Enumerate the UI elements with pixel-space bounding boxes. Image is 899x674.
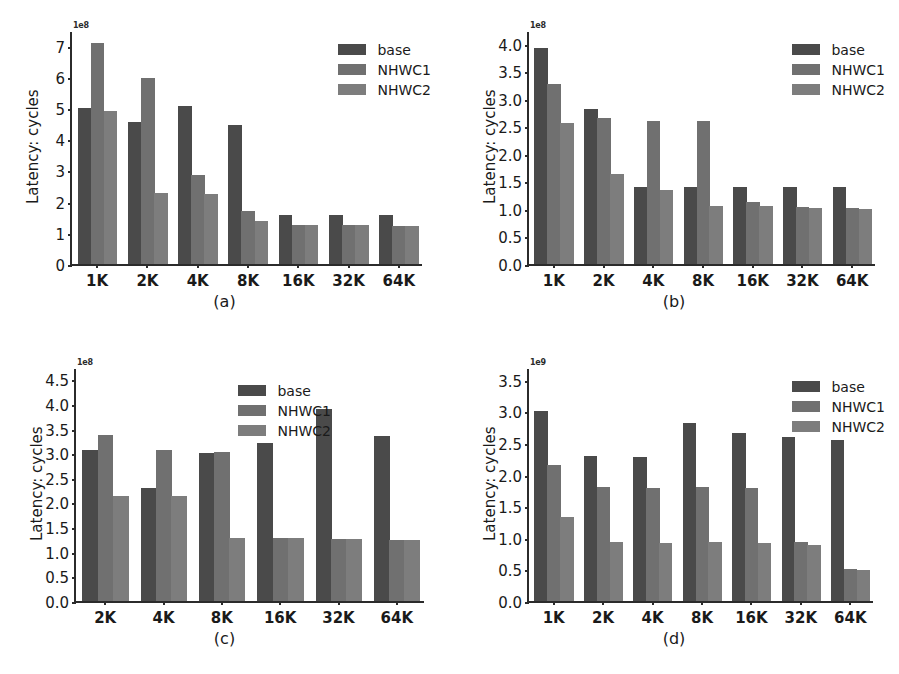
x-tick-mark-d-5 [800, 601, 802, 605]
bar-b-64K-base [833, 187, 847, 264]
x-tick-mark-a-5 [348, 264, 350, 268]
bar-d-1K-NHWC2 [560, 517, 573, 601]
legend-swatch-NHWC1-icon [338, 64, 366, 75]
x-tick-label-a-1: 2K [136, 272, 158, 290]
bar-b-4K-NHWC2 [660, 190, 674, 264]
figure-bar-chart-grid: 012345671K2K4K8K16K32K64K1e8Latency: cyc… [0, 0, 899, 674]
x-tick-label-b-6: 64K [836, 272, 869, 290]
y-tick-mark-d-7 [525, 381, 529, 383]
y-tick-mark-d-4 [525, 476, 529, 478]
legend-swatch-NHWC2-icon [792, 421, 820, 432]
bar-b-2K-NHWC1 [597, 118, 611, 264]
bar-d-32K-NHWC2 [807, 545, 820, 601]
y-tick-mark-c-0 [72, 602, 76, 604]
panel-d: 0.00.51.01.52.02.53.03.51K2K4K8K16K32K64… [449, 337, 899, 674]
x-tick-label-a-5: 32K [332, 272, 365, 290]
x-tick-mark-b-5 [801, 264, 803, 268]
bar-a-2K-base [128, 122, 142, 264]
bar-a-2K-NHWC2 [154, 193, 168, 264]
legend-swatch-NHWC1-icon [238, 405, 266, 416]
y-tick-mark-c-4 [72, 503, 76, 505]
x-tick-mark-c-5 [396, 601, 398, 605]
y-tick-mark-d-0 [525, 602, 529, 604]
y-tick-mark-a-7 [68, 47, 72, 49]
bar-b-4K-NHWC1 [647, 121, 661, 264]
axis-exponent-label-c: 1e8 [77, 358, 93, 367]
legend-swatch-base-icon [792, 381, 820, 392]
legend-label-c-NHWC1: NHWC1 [277, 403, 331, 419]
bar-d-1K-NHWC1 [547, 465, 560, 601]
x-tick-mark-a-2 [197, 264, 199, 268]
bar-a-32K-NHWC1 [342, 225, 356, 264]
x-tick-label-a-2: 4K [187, 272, 209, 290]
bar-a-64K-NHWC1 [392, 226, 406, 264]
legend-item-b-NHWC2: NHWC2 [792, 82, 885, 97]
x-tick-mark-d-0 [553, 601, 555, 605]
x-tick-label-c-0: 2K [94, 609, 116, 627]
legend-item-c-NHWC2: NHWC2 [238, 423, 331, 438]
legend-label-c-NHWC2: NHWC2 [277, 423, 331, 439]
bar-d-4K-NHWC1 [646, 488, 659, 601]
x-tick-mark-a-6 [398, 264, 400, 268]
panel-caption-b: (b) [449, 292, 899, 311]
legend-item-a-NHWC2: NHWC2 [338, 82, 431, 97]
x-tick-mark-b-1 [603, 264, 605, 268]
y-axis-label-b: Latency: cycles [481, 89, 499, 204]
y-tick-mark-b-7 [525, 72, 529, 74]
x-tick-label-d-5: 32K [785, 609, 818, 627]
bar-c-32K-NHWC2 [346, 539, 362, 601]
bar-b-2K-NHWC2 [610, 174, 624, 264]
y-tick-mark-d-2 [525, 539, 529, 541]
legend-item-a-NHWC1: NHWC1 [338, 62, 431, 77]
y-tick-mark-b-8 [525, 45, 529, 47]
x-tick-label-c-3: 16K [264, 609, 297, 627]
legend-swatch-base-icon [792, 44, 820, 55]
x-tick-mark-a-0 [96, 264, 98, 268]
x-tick-mark-a-4 [297, 264, 299, 268]
bar-c-64K-base [374, 436, 390, 601]
bar-b-8K-NHWC1 [697, 121, 711, 264]
bar-d-1K-base [534, 411, 547, 601]
bar-b-2K-base [584, 109, 598, 264]
bar-c-16K-base [257, 443, 273, 601]
y-tick-mark-c-3 [72, 528, 76, 530]
y-axis-label-a: Latency: cycles [24, 89, 42, 204]
y-tick-mark-b-2 [525, 210, 529, 212]
bar-d-16K-NHWC2 [758, 543, 771, 601]
bar-d-32K-NHWC1 [794, 542, 807, 601]
bar-a-4K-NHWC1 [191, 175, 205, 264]
bar-a-16K-NHWC2 [305, 225, 319, 264]
legend-item-c-NHWC1: NHWC1 [238, 403, 331, 418]
panel-c: 0.00.51.01.52.02.53.03.54.04.52K4K8K16K3… [0, 337, 449, 674]
axis-exponent-label-b: 1e8 [530, 21, 546, 30]
x-tick-label-b-2: 4K [642, 272, 664, 290]
bar-a-4K-base [178, 106, 192, 264]
bar-c-4K-base [141, 488, 157, 601]
y-tick-mark-a-6 [68, 78, 72, 80]
bar-a-64K-NHWC2 [405, 226, 419, 264]
x-tick-label-d-1: 2K [592, 609, 614, 627]
bar-c-2K-NHWC1 [98, 435, 114, 601]
bar-a-8K-NHWC2 [255, 221, 269, 264]
legend-swatch-base-icon [338, 44, 366, 55]
bar-c-8K-base [199, 453, 215, 601]
x-tick-mark-d-1 [602, 601, 604, 605]
x-tick-label-b-3: 8K [692, 272, 714, 290]
bar-a-8K-NHWC1 [241, 211, 255, 264]
y-tick-mark-d-5 [525, 444, 529, 446]
legend-label-b-NHWC2: NHWC2 [831, 82, 885, 98]
bar-b-8K-NHWC2 [709, 206, 723, 264]
panel-caption-d: (d) [449, 629, 899, 648]
bar-d-8K-NHWC1 [696, 487, 709, 601]
y-tick-mark-c-7 [72, 430, 76, 432]
x-tick-label-d-4: 16K [735, 609, 768, 627]
bar-a-1K-NHWC2 [104, 111, 118, 265]
legend-swatch-base-icon [238, 385, 266, 396]
bar-b-1K-NHWC1 [547, 84, 561, 264]
bar-b-64K-NHWC2 [859, 209, 873, 264]
x-tick-mark-b-6 [851, 264, 853, 268]
bar-a-16K-base [279, 215, 293, 264]
bar-b-16K-NHWC2 [759, 206, 773, 264]
bar-a-32K-NHWC2 [355, 225, 369, 264]
x-tick-mark-d-4 [750, 601, 752, 605]
